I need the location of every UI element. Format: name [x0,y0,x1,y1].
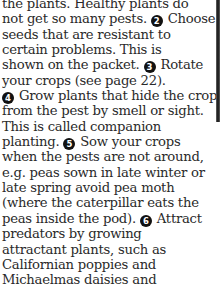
text-line-partial: Michaelmas daisies and [2,272,216,287]
text-line: from the pest by smell or sight. [2,103,216,118]
text-line: predators by growing [2,226,216,241]
step-number-badge: 4 [2,92,14,104]
step-number-badge: 2 [151,15,163,27]
text-line: the plants. Healthy plants do [2,0,216,11]
step-number-badge: 6 [140,215,152,227]
text-line: when the pests are not around, [2,149,216,164]
text-line: late spring avoid pea moth [2,180,216,195]
text-line: (where the caterpillar eats the [2,195,216,210]
step-number-badge: 5 [63,138,75,150]
body-paragraph: the plants. Healthy plants do not get so… [2,0,216,288]
text-line: your crops (see page 22). [2,73,216,88]
photo-edge [216,0,220,122]
text-line: attractant plants, such as [2,242,216,257]
text-line: peas inside the pod). 6 Attract [2,211,216,226]
text-line: planting. 5 Sow your crops [2,134,216,149]
text-line: seeds that are resistant to [2,27,216,42]
text-line: e.g. peas sown in late winter or [2,165,216,180]
text-line: 4 Grow plants that hide the crop [2,88,216,103]
text-line: shown on the packet. 3 Rotate [2,57,216,72]
text-line: Californian poppies and [2,257,216,272]
text-line: This is called companion [2,119,216,134]
text-line: not get so many pests. 2 Choose [2,11,216,26]
step-number-badge: 3 [144,61,156,73]
document-page: the plants. Healthy plants do not get so… [0,0,223,289]
text-line: certain problems. This is [2,42,216,57]
